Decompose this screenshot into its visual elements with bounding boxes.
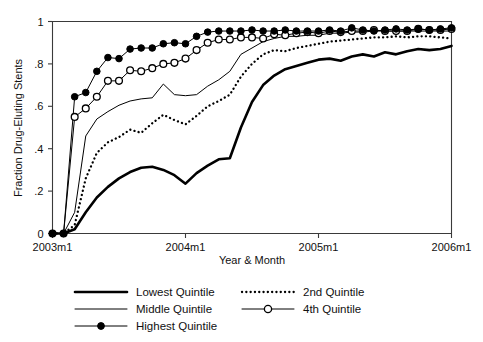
y-tick-label-group: 0.2.4.6.81 [34, 16, 43, 240]
data-point-marker [260, 35, 267, 42]
data-point-marker [149, 65, 156, 72]
legend-label: 4th Quintile [303, 303, 361, 315]
data-point-marker [348, 25, 355, 32]
data-point-marker [226, 36, 233, 43]
data-point-marker [315, 28, 322, 35]
data-point-marker [282, 27, 289, 34]
legend-item-highest-quintile[interactable]: Highest Quintile [75, 320, 217, 332]
data-point-marker [193, 33, 200, 40]
data-point-marker [204, 39, 211, 46]
data-point-marker [182, 55, 189, 62]
data-point-marker [227, 28, 234, 35]
x-tick-label-group: 2003m12004m12005m12006m1 [33, 241, 472, 253]
y-tick-label: 0 [37, 228, 43, 240]
data-point-marker [182, 40, 189, 47]
x-axis-label: Year & Month [219, 254, 285, 266]
y-axis-label: Fraction Drug-Eluting Stents [12, 58, 24, 197]
data-point-marker [437, 26, 444, 33]
data-point-marker [71, 93, 78, 100]
data-point-marker [215, 36, 222, 43]
legend-label: 2nd Quintile [303, 286, 364, 298]
data-point-marker [93, 93, 100, 100]
data-point-marker [415, 26, 422, 33]
data-point-marker [215, 28, 222, 35]
data-point-marker [249, 34, 256, 41]
data-point-marker [105, 77, 112, 84]
data-point-marker [49, 230, 56, 237]
data-point-marker [60, 230, 67, 237]
data-point-marker [116, 55, 123, 62]
y-tick-label: .2 [34, 185, 43, 197]
data-point-marker [337, 28, 344, 35]
data-point-marker [293, 28, 300, 35]
y-tick-label: .4 [34, 143, 43, 155]
data-point-marker [160, 61, 167, 68]
x-tick-label: 2005m1 [299, 241, 339, 253]
data-point-marker [138, 68, 145, 75]
series-line-4th-quintile [53, 29, 452, 234]
data-point-marker [138, 45, 145, 52]
legend-label: Highest Quintile [136, 320, 217, 332]
data-point-marker [238, 34, 245, 41]
data-point-marker [382, 27, 389, 34]
legend-marker-open-circle-icon [264, 305, 271, 312]
data-point-marker [360, 27, 367, 34]
x-tick-label: 2003m1 [33, 241, 73, 253]
line-chart: Fraction Drug-Eluting Stents Year & Mont… [0, 0, 483, 342]
legend-item-4th-quintile[interactable]: 4th Quintile [242, 303, 361, 315]
y-tick-label: 1 [37, 16, 43, 28]
plot-series-group [53, 28, 452, 234]
series-line-middle-quintile [53, 31, 452, 233]
data-point-marker [127, 67, 134, 74]
data-point-marker [160, 40, 167, 47]
series-line-highest-quintile [53, 28, 452, 234]
data-point-marker [193, 47, 200, 54]
chart-legend: Lowest Quintile2nd QuintileMiddle Quinti… [75, 286, 364, 332]
data-point-marker [149, 45, 156, 52]
y-tick-label: .6 [34, 100, 43, 112]
legend-marker-filled-circle-icon [98, 323, 105, 330]
x-tick-label: 2006m1 [432, 241, 472, 253]
x-tick-label: 2004m1 [166, 241, 206, 253]
data-point-marker [71, 114, 78, 121]
legend-item-middle-quintile[interactable]: Middle Quintile [75, 303, 212, 315]
data-point-marker [393, 26, 400, 33]
legend-item-lowest-quintile[interactable]: Lowest Quintile [75, 286, 215, 298]
plot-marker-group [49, 25, 455, 237]
data-point-marker [448, 25, 455, 32]
data-point-marker [82, 105, 89, 112]
data-point-marker [171, 59, 178, 66]
data-point-marker [105, 54, 112, 61]
chart-figure: Fraction Drug-Eluting Stents Year & Mont… [0, 0, 483, 342]
data-point-marker [404, 27, 411, 34]
legend-label: Middle Quintile [136, 303, 212, 315]
data-point-marker [171, 39, 178, 46]
data-point-marker [326, 27, 333, 34]
data-point-marker [116, 77, 123, 84]
data-point-marker [204, 29, 211, 36]
legend-item-2nd-quintile[interactable]: 2nd Quintile [242, 286, 364, 298]
data-point-marker [371, 28, 378, 35]
data-point-marker [426, 27, 433, 34]
y-tick-label: .8 [34, 58, 43, 70]
data-point-marker [260, 28, 267, 35]
data-point-marker [82, 89, 89, 96]
legend-label: Lowest Quintile [136, 286, 215, 298]
data-point-marker [94, 68, 101, 75]
data-point-marker [127, 46, 134, 53]
data-point-marker [271, 28, 278, 35]
series-line-2nd-quintile [53, 36, 452, 233]
data-point-marker [249, 27, 256, 34]
data-point-marker [238, 28, 245, 35]
data-point-marker [304, 28, 311, 35]
